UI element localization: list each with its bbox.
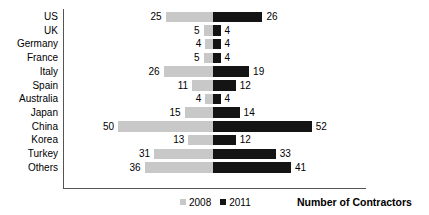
legend-item-2008: 2008 (180, 197, 211, 208)
chart-legend: 2008 2011 (180, 194, 256, 210)
bar-2008-australia (205, 94, 213, 105)
category-label-australia: Australia (0, 92, 58, 106)
chart-row: Australia44 (0, 92, 429, 106)
x-axis-title: Number of Contractors (297, 194, 412, 210)
value-label-2008-spain: 11 (178, 79, 188, 93)
category-label-spain: Spain (0, 79, 58, 93)
chart-row: Italy2619 (0, 65, 429, 79)
bar-2011-germany (213, 39, 221, 50)
bar-2008-others (145, 162, 213, 173)
bar-2011-spain (213, 80, 236, 91)
category-label-china: China (0, 120, 58, 134)
category-label-korea: Korea (0, 133, 58, 147)
bar-2011-korea (213, 135, 236, 146)
bar-2008-turkey (154, 149, 213, 160)
category-label-turkey: Turkey (0, 147, 58, 161)
value-label-2011-korea: 12 (240, 133, 251, 147)
bar-2008-germany (205, 39, 213, 50)
legend-label-2011: 2011 (229, 197, 251, 208)
bar-2011-japan (213, 107, 240, 118)
value-label-2008-others: 36 (129, 161, 140, 175)
value-label-2008-us: 25 (150, 10, 161, 24)
legend-item-2011: 2011 (220, 197, 251, 208)
bar-2011-turkey (213, 149, 276, 160)
value-label-2011-us: 26 (266, 10, 277, 24)
category-label-france: France (0, 51, 58, 65)
bar-2011-us (213, 12, 262, 23)
category-label-uk: UK (0, 24, 58, 38)
legend-label-2008: 2008 (189, 197, 211, 208)
bar-2008-france (204, 53, 214, 64)
value-label-2008-france: 5 (194, 51, 200, 65)
value-label-2008-uk: 5 (194, 24, 200, 38)
value-label-2011-germany: 4 (225, 37, 231, 51)
value-label-2008-turkey: 31 (139, 147, 150, 161)
chart-row: US2526 (0, 10, 429, 24)
bar-2011-australia (213, 94, 221, 105)
bar-2011-france (213, 53, 221, 64)
category-label-italy: Italy (0, 65, 58, 79)
value-label-2011-china: 52 (316, 120, 327, 134)
x-axis-line (63, 188, 366, 189)
chart-row: Turkey3133 (0, 147, 429, 161)
value-label-2011-turkey: 33 (280, 147, 291, 161)
bar-2011-others (213, 162, 291, 173)
bar-2008-spain (192, 80, 213, 91)
legend-swatch-2011-icon (220, 199, 226, 205)
chart-row: Korea1312 (0, 133, 429, 147)
category-label-japan: Japan (0, 106, 58, 120)
bar-2011-italy (213, 66, 249, 77)
value-label-2008-australia: 4 (196, 92, 202, 106)
bar-2008-china (118, 121, 213, 132)
value-label-2011-france: 4 (225, 51, 231, 65)
chart-row: Germany44 (0, 37, 429, 51)
bar-2008-italy (164, 66, 213, 77)
value-label-2011-italy: 19 (253, 65, 264, 79)
value-label-2008-china: 50 (103, 120, 114, 134)
bar-2008-us (166, 12, 214, 23)
chart-row: France54 (0, 51, 429, 65)
bar-chart: US2526UK54Germany44France54Italy2619Spai… (0, 0, 429, 215)
bar-2011-uk (213, 25, 221, 36)
bar-2011-china (213, 121, 312, 132)
chart-row: Others3641 (0, 161, 429, 175)
chart-row: Spain1112 (0, 79, 429, 93)
bar-2008-japan (185, 107, 214, 118)
chart-row: Japan1514 (0, 106, 429, 120)
value-label-2011-japan: 14 (244, 106, 255, 120)
value-label-2008-japan: 15 (169, 106, 180, 120)
value-label-2008-korea: 13 (173, 133, 184, 147)
value-label-2011-others: 41 (295, 161, 306, 175)
chart-row: China5052 (0, 120, 429, 134)
bar-2008-uk (204, 25, 214, 36)
value-label-2011-australia: 4 (225, 92, 231, 106)
category-label-germany: Germany (0, 37, 58, 51)
value-label-2008-italy: 26 (148, 65, 159, 79)
legend-swatch-2008-icon (180, 199, 186, 205)
bar-2008-korea (188, 135, 213, 146)
value-label-2011-uk: 4 (225, 24, 231, 38)
value-label-2008-germany: 4 (196, 37, 202, 51)
category-label-us: US (0, 10, 58, 24)
category-label-others: Others (0, 161, 58, 175)
chart-row: UK54 (0, 24, 429, 38)
value-label-2011-spain: 12 (240, 79, 251, 93)
